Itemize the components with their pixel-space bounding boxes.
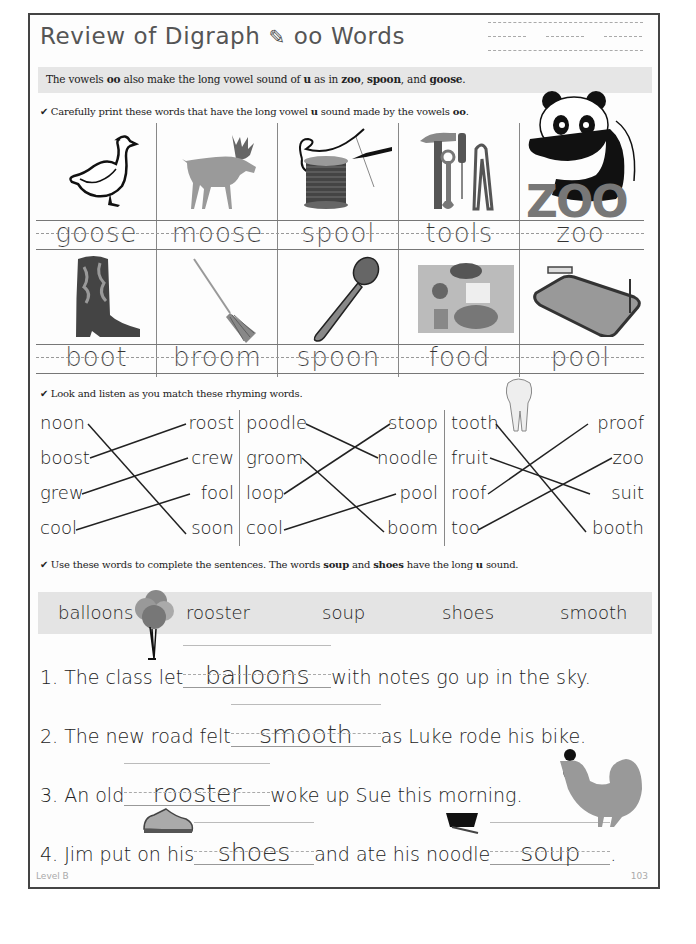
pool-icon (530, 263, 642, 337)
answer-blank-1[interactable]: balloons (183, 663, 331, 688)
boot-icon (66, 253, 148, 341)
sentence-2: 2. The new road feltsmoothas Luke rode h… (40, 722, 586, 747)
word-tools[interactable]: tools (399, 218, 520, 248)
picture-word-grid: ZOO goose moose spool tools zoo (36, 123, 644, 377)
title-text-2: oo Words (294, 23, 405, 49)
word-goose[interactable]: goose (36, 218, 157, 248)
moose-icon (176, 131, 268, 213)
answer-blank-4a[interactable]: shoes (194, 840, 314, 865)
shoes-icon (142, 807, 194, 835)
word-spoon[interactable]: spoon (278, 342, 399, 372)
word-food[interactable]: food (399, 342, 520, 372)
title-text: Review of Digraph (40, 23, 260, 49)
instruction-match-rhymes: ✔ Look and listen as you match these rhy… (40, 388, 302, 399)
word-zoo[interactable]: zoo (520, 218, 641, 248)
page-title: Review of Digraph ✎ oo Words (40, 23, 405, 49)
balloons-icon (134, 589, 174, 665)
name-write-lines[interactable] (488, 19, 643, 59)
word-bank-smooth: smooth (560, 602, 627, 623)
answer-blank-2[interactable]: smooth (231, 722, 381, 747)
instruction-complete-sentences: ✔ Use these words to complete the senten… (40, 559, 518, 570)
food-icon (418, 261, 514, 333)
word-moose[interactable]: moose (157, 218, 278, 248)
sentence-4: 4. Jim put on hisshoesand ate his noodle… (40, 840, 616, 865)
pencil-icon: ✎ (268, 25, 285, 49)
soup-pot-icon (442, 807, 482, 837)
goose-icon (66, 129, 146, 211)
answer-blank-4b[interactable]: soup (490, 840, 610, 865)
sentence-1: 1. The class letballoonswith notes go up… (40, 663, 591, 688)
spool-icon (292, 127, 392, 211)
match-lines (38, 410, 646, 546)
checkmark-icon: ✔ (40, 106, 48, 117)
footer-level: Level B (36, 871, 69, 881)
checkmark-icon: ✔ (40, 559, 48, 570)
word-bank: balloons rooster soup shoes smooth (38, 592, 652, 634)
word-bank-rooster: rooster (186, 602, 250, 623)
rhyme-matching: noon boost grew cool roost crew fool soo… (38, 410, 646, 546)
sentence-3: 3. An oldroosterwoke up Sue this morning… (40, 781, 523, 806)
svg-text:ZOO: ZOO (526, 176, 627, 221)
info-banner: The vowels oo also make the long vowel s… (38, 67, 652, 93)
tools-icon (416, 129, 506, 215)
rooster-icon (558, 749, 648, 829)
word-pool[interactable]: pool (520, 342, 641, 372)
spoon-icon (308, 255, 384, 343)
broom-icon (186, 257, 266, 343)
word-bank-shoes: shoes (442, 602, 494, 623)
checkmark-icon: ✔ (40, 388, 48, 399)
word-spool[interactable]: spool (278, 218, 399, 248)
word-bank-soup: soup (322, 602, 365, 623)
instruction-print-words: ✔ Carefully print these words that have … (40, 106, 469, 117)
footer-page-number: 103 (631, 871, 648, 881)
zoo-panda-icon: ZOO (524, 91, 646, 221)
worksheet-page: Review of Digraph ✎ oo Words The vowels … (28, 13, 660, 889)
word-broom[interactable]: broom (157, 342, 278, 372)
answer-blank-3[interactable]: rooster (124, 781, 270, 806)
word-bank-balloons: balloons (58, 602, 133, 623)
word-boot[interactable]: boot (36, 342, 157, 372)
